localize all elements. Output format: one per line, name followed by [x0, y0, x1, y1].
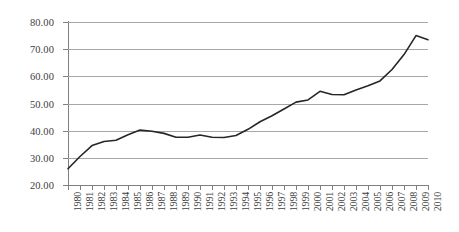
x-tick-1997	[272, 186, 273, 190]
x-axis-label-1985: 1985	[132, 192, 143, 211]
x-axis-label-2006: 2006	[384, 192, 395, 211]
x-tick-1993	[224, 186, 225, 190]
x-tick-1992	[212, 186, 213, 190]
x-tick-1996	[260, 186, 261, 190]
x-axis-label-1980: 1980	[72, 192, 83, 211]
x-tick-1991	[200, 186, 201, 190]
x-tick-1998	[284, 186, 285, 190]
y-axis-label-50.00: 50.00	[30, 98, 54, 109]
x-axis-label-1994: 1994	[240, 192, 251, 211]
x-axis-label-2000: 2000	[312, 192, 323, 211]
x-axis-label-1987: 1987	[156, 192, 167, 211]
x-axis-label-1981: 1981	[84, 192, 95, 211]
x-tick-2008	[404, 186, 405, 190]
plot-area	[68, 22, 428, 185]
x-axis-label-2005: 2005	[372, 192, 383, 211]
x-tick-2005	[368, 186, 369, 190]
x-axis-label-1999: 1999	[300, 192, 311, 211]
y-axis-label-40.00: 40.00	[30, 125, 54, 136]
x-tick-2000	[308, 186, 309, 190]
y-axis-label-20.00: 20.00	[30, 180, 54, 191]
x-tick-1983	[104, 186, 105, 190]
x-tick-2006	[380, 186, 381, 190]
y-axis-label-70.00: 70.00	[30, 44, 54, 55]
x-tick-1990	[188, 186, 189, 190]
x-axis-label-1991: 1991	[204, 192, 215, 211]
x-tick-1988	[164, 186, 165, 190]
y-axis-label-80.00: 80.00	[30, 17, 54, 28]
x-tick-2003	[344, 186, 345, 190]
x-tick-1989	[176, 186, 177, 190]
x-tick-1981	[80, 186, 81, 190]
x-axis-label-2010: 2010	[432, 192, 443, 211]
x-tick-2002	[332, 186, 333, 190]
x-tick-1995	[248, 186, 249, 190]
x-axis-label-2001: 2001	[324, 192, 335, 211]
x-axis-label-1989: 1989	[180, 192, 191, 211]
x-tick-1982	[92, 186, 93, 190]
y-axis-label-60.00: 60.00	[30, 71, 54, 82]
x-axis-label-1984: 1984	[120, 192, 131, 211]
x-axis-label-1992: 1992	[216, 192, 227, 211]
x-tick-1994	[236, 186, 237, 190]
x-axis-label-1983: 1983	[108, 192, 119, 211]
x-axis-ticks	[68, 186, 429, 191]
x-axis-label-2007: 2007	[396, 192, 407, 211]
x-axis-label-1993: 1993	[228, 192, 239, 211]
x-tick-2009	[416, 186, 417, 190]
x-axis-label-2004: 2004	[360, 192, 371, 211]
y-axis-label-30.00: 30.00	[30, 152, 54, 163]
x-axis-label-1986: 1986	[144, 192, 155, 211]
series-1-polyline	[68, 36, 428, 169]
x-axis-label-1997: 1997	[276, 192, 287, 211]
x-tick-2007	[392, 186, 393, 190]
line-chart: 20.0030.0040.0050.0060.0070.0080.00 1980…	[0, 0, 459, 232]
x-tick-1987	[152, 186, 153, 190]
x-axis-label-1990: 1990	[192, 192, 203, 211]
x-axis-labels: 1980198119821983198419851986198719881989…	[68, 192, 429, 232]
x-axis-label-2003: 2003	[348, 192, 359, 211]
x-tick-2004	[356, 186, 357, 190]
x-axis-label-2002: 2002	[336, 192, 347, 211]
x-axis-label-1988: 1988	[168, 192, 179, 211]
x-tick-1986	[140, 186, 141, 190]
x-axis-label-2008: 2008	[408, 192, 419, 211]
data-series-line	[68, 22, 428, 185]
x-axis-label-1996: 1996	[264, 192, 275, 211]
x-axis-label-1982: 1982	[96, 192, 107, 211]
x-axis-label-1998: 1998	[288, 192, 299, 211]
x-tick-1980	[68, 186, 69, 190]
y-axis-labels: 20.0030.0040.0050.0060.0070.0080.00	[0, 0, 62, 232]
x-axis-label-1995: 1995	[252, 192, 263, 211]
x-axis-label-2009: 2009	[420, 192, 431, 211]
x-tick-2010	[428, 186, 429, 190]
x-tick-1985	[128, 186, 129, 190]
x-tick-1999	[296, 186, 297, 190]
x-tick-1984	[116, 186, 117, 190]
x-tick-2001	[320, 186, 321, 190]
